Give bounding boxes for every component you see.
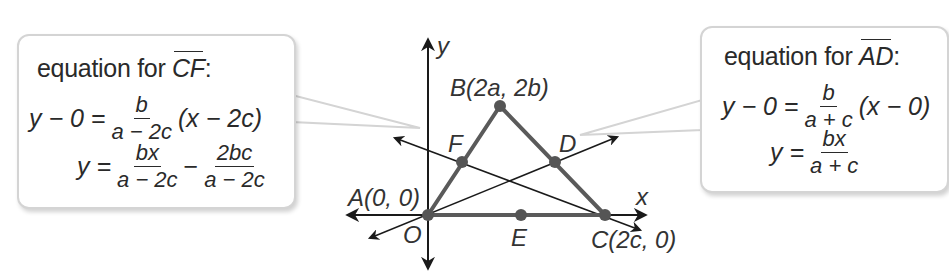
fraction: 2bca − 2c — [202, 142, 267, 191]
point-d — [549, 156, 561, 168]
fraction: ba − 2c — [109, 94, 174, 143]
label-c: C(2c, 0) — [591, 226, 676, 253]
label-b: B(2a, 2b) — [450, 74, 549, 101]
point-c — [599, 209, 611, 221]
y-axis-label: y — [435, 32, 451, 59]
label-f: F — [448, 130, 464, 157]
label-a: A(0, 0) — [346, 184, 420, 211]
label-d: D — [559, 130, 576, 157]
callout-equation-cf: equation for CF: y − 0 = ba − 2c (x − 2c… — [17, 34, 296, 209]
equation-cf-point-slope: y − 0 = ba − 2c (x − 2c) — [29, 94, 262, 143]
line-notation-cf: CF — [172, 54, 205, 83]
left-callout-tail — [292, 95, 420, 128]
x-axis-label: x — [635, 183, 649, 210]
callout-title: equation for CF: — [37, 54, 211, 83]
callout-title: equation for AD: — [724, 42, 900, 71]
label-e: E — [511, 224, 528, 251]
point-a — [422, 209, 434, 221]
equation-ad-slope-intercept: y = bxa + c — [770, 128, 864, 177]
equation-ad-point-slope: y − 0 = ba + c (x − 0) — [722, 82, 930, 131]
callout-equation-ad: equation for AD: y − 0 = ba + c (x − 0) … — [700, 26, 949, 193]
fraction: ba + c — [802, 82, 854, 131]
line-notation-ad: AD — [859, 42, 893, 71]
point-e — [515, 209, 527, 221]
right-callout-tail — [580, 100, 702, 135]
fraction: bxa + c — [808, 128, 860, 177]
label-o: O — [403, 221, 422, 248]
fraction: bxa − 2c — [115, 142, 180, 191]
point-f — [456, 156, 468, 168]
equation-cf-slope-intercept: y = bxa − 2c − 2bca − 2c — [77, 142, 271, 191]
point-b — [494, 100, 506, 112]
